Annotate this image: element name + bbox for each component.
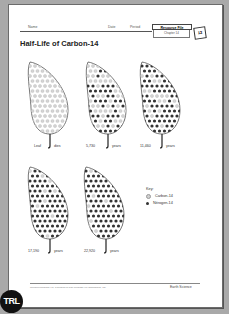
- resource-file-box: Resource File Chapter 14: [152, 24, 192, 40]
- leaf-unit-label: dies: [54, 144, 61, 148]
- leaf-time-label: Leaf: [34, 144, 41, 148]
- leaf-unit-label: years: [166, 144, 175, 148]
- key-item-nitrogen: Nitrogen-14: [146, 200, 173, 207]
- carbon-dot-icon: [146, 194, 151, 199]
- page-number-tab: 12: [193, 26, 207, 40]
- footer-line: [30, 283, 200, 284]
- chapter-label: Chapter 14: [153, 30, 190, 38]
- copyright-text: Glencoe/McGraw-Hill, a division of The M…: [30, 286, 106, 289]
- page-title: Half-Life of Carbon-14: [20, 39, 98, 48]
- date-label: Date: [108, 25, 115, 29]
- key-legend: Key: Carbon-14 Nitrogen-14: [146, 186, 173, 207]
- leaf-time-label: 17,190: [28, 249, 39, 253]
- trl-badge: TRL: [0, 290, 23, 313]
- leaf-unit-label: years: [110, 249, 119, 253]
- header-line: [20, 31, 152, 32]
- leaf-icon: [24, 60, 72, 150]
- leaf-time-label: 22,920: [84, 249, 95, 253]
- leaf-icon: [82, 60, 130, 150]
- leaf-icon: [80, 165, 128, 255]
- leaf-time-label: 11,460: [140, 144, 151, 148]
- leaf-icon: [136, 60, 184, 150]
- period-label: Period: [130, 25, 140, 29]
- name-label: Name: [28, 25, 37, 29]
- leaf-unit-label: years: [54, 249, 63, 253]
- worksheet-page: [8, 4, 223, 308]
- leaf-time-label: 5,730: [86, 144, 95, 148]
- key-item-carbon: Carbon-14: [146, 193, 173, 200]
- subject-label: Earth Science: [170, 285, 192, 289]
- key-title: Key:: [146, 186, 173, 193]
- leaf-icon: [24, 165, 72, 255]
- nitrogen-dot-icon: [146, 202, 149, 205]
- leaf-unit-label: years: [112, 144, 121, 148]
